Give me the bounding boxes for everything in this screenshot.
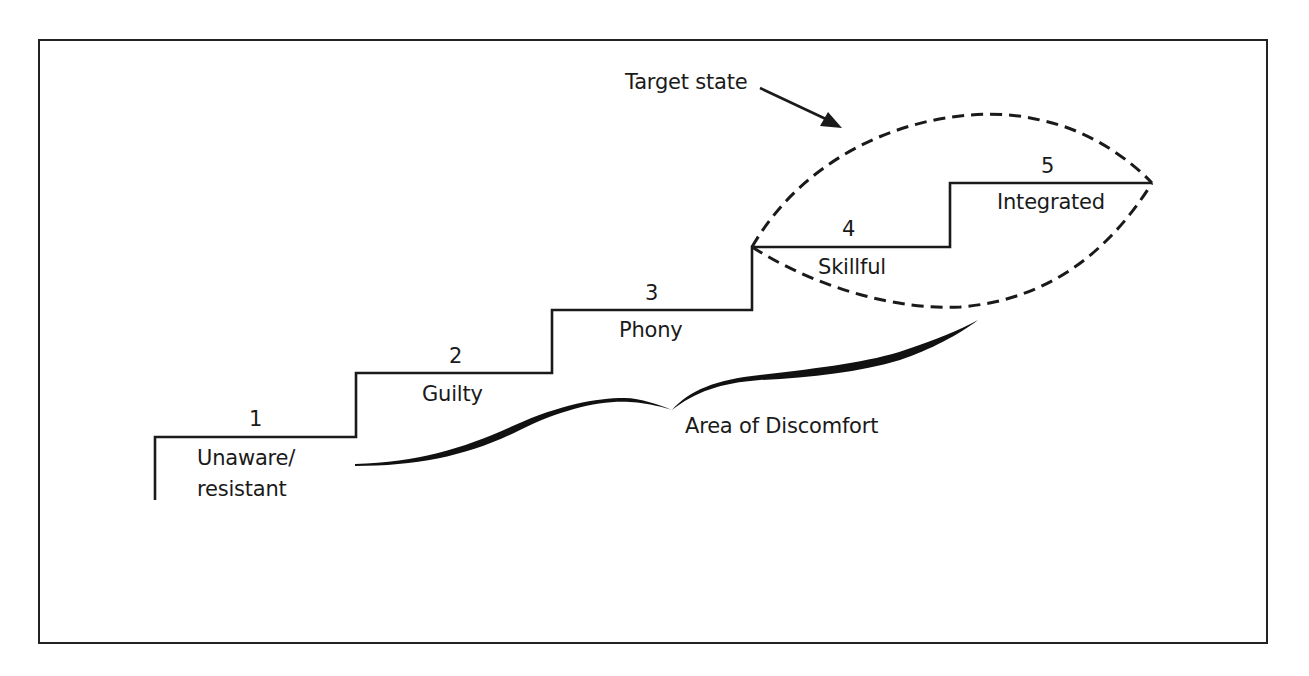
stage-4-number: 4 (842, 217, 855, 241)
stage-1-label-line2: resistant (197, 477, 287, 501)
stage-4-label: Skillful (818, 255, 886, 279)
discomfort-label: Area of Discomfort (685, 414, 878, 438)
stage-3-label: Phony (619, 318, 683, 342)
stage-1-label: Unaware/ (197, 446, 295, 470)
stage-3-number: 3 (645, 281, 658, 305)
stage-2-label: Guilty (422, 382, 483, 406)
target-state-label: Target state (625, 70, 747, 94)
target-state-region (752, 114, 1152, 247)
discomfort-brace-left (355, 398, 672, 466)
stage-5-label: Integrated (997, 190, 1105, 214)
stage-2-number: 2 (449, 344, 462, 368)
stage-5-number: 5 (1041, 154, 1054, 178)
discomfort-brace-right (672, 320, 978, 410)
stage-1-number: 1 (249, 407, 262, 431)
arrow-icon (760, 88, 842, 128)
